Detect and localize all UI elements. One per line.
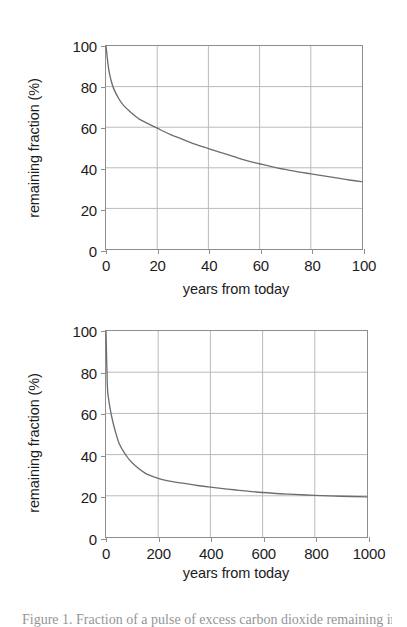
- x-tick-mark: [106, 537, 107, 542]
- y-tick-label: 60: [81, 120, 97, 137]
- x-tick-mark: [211, 537, 212, 542]
- x-tick-label: 800: [304, 545, 328, 562]
- figure-caption: Figure 1. Fraction of a pulse of excess …: [22, 612, 392, 627]
- y-tick-label: 40: [81, 447, 97, 464]
- y-tick-mark: [101, 373, 106, 374]
- panel-2-data-curve: [106, 331, 367, 497]
- y-tick-mark: [101, 456, 106, 457]
- x-tick-mark: [264, 537, 265, 542]
- panel-1-y-axis-title: remaining fraction (%): [26, 28, 52, 268]
- panel-1-gridlines: [106, 46, 362, 249]
- y-tick-label: 0: [89, 243, 97, 260]
- y-tick-label: 40: [81, 161, 97, 178]
- panel-2-curve-svg: [106, 331, 367, 537]
- x-tick-mark: [158, 249, 159, 254]
- x-tick-label: 600: [252, 545, 276, 562]
- y-tick-mark: [101, 210, 106, 211]
- panel-2-plot-area: 020406080100 02004006008001000: [105, 330, 368, 538]
- x-tick-label: 400: [199, 545, 223, 562]
- panel-2-gridlines: [106, 331, 367, 537]
- x-tick-mark: [364, 249, 365, 254]
- panel-1-plot-area: 020406080100 020406080100: [105, 45, 363, 250]
- y-tick-label: 60: [81, 406, 97, 423]
- y-tick-mark: [101, 128, 106, 129]
- panel-1-x-axis-title: years from today: [105, 281, 367, 297]
- x-tick-label: 200: [146, 545, 170, 562]
- x-tick-label: 80: [304, 257, 320, 274]
- chart-panel-2: remaining fraction (%) 020406080100 0200…: [0, 305, 407, 605]
- y-tick-label: 100: [73, 38, 97, 55]
- y-tick-mark: [101, 46, 106, 47]
- x-tick-mark: [106, 249, 107, 254]
- panel-1-data-curve: [106, 46, 362, 182]
- x-tick-label: 40: [201, 257, 217, 274]
- y-tick-mark: [101, 414, 106, 415]
- chart-panel-1: remaining fraction (%) 020406080100 0204…: [0, 0, 407, 305]
- x-tick-mark: [316, 537, 317, 542]
- figure-two-panel-decay-curves: remaining fraction (%) 020406080100 0204…: [0, 0, 407, 627]
- panel-2-y-axis-title: remaining fraction (%): [26, 323, 52, 563]
- y-tick-label: 20: [81, 489, 97, 506]
- x-tick-label: 100: [352, 257, 376, 274]
- x-tick-label: 0: [102, 257, 110, 274]
- y-tick-label: 100: [73, 323, 97, 340]
- panel-1-curve-svg: [106, 46, 362, 249]
- y-tick-label: 20: [81, 202, 97, 219]
- y-tick-label: 0: [89, 531, 97, 548]
- x-tick-mark: [312, 249, 313, 254]
- x-tick-label: 60: [253, 257, 269, 274]
- x-tick-label: 1000: [353, 545, 386, 562]
- y-tick-mark: [101, 497, 106, 498]
- panel-2-x-axis-title: years from today: [105, 565, 367, 581]
- x-tick-mark: [261, 249, 262, 254]
- y-tick-mark: [101, 331, 106, 332]
- y-tick-mark: [101, 87, 106, 88]
- y-tick-label: 80: [81, 79, 97, 96]
- x-tick-label: 20: [149, 257, 165, 274]
- y-tick-label: 80: [81, 364, 97, 381]
- x-tick-mark: [369, 537, 370, 542]
- x-tick-mark: [209, 249, 210, 254]
- x-tick-mark: [159, 537, 160, 542]
- y-tick-mark: [101, 169, 106, 170]
- x-tick-label: 0: [102, 545, 110, 562]
